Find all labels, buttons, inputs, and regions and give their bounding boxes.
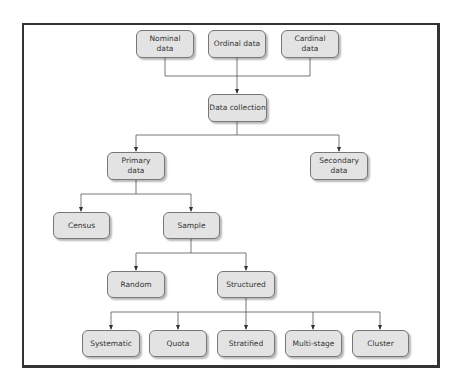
node-sample: Sample (163, 212, 220, 239)
node-cluster: Cluster (352, 330, 409, 357)
node-stratified: Stratified (217, 330, 275, 357)
node-census: Census (53, 212, 110, 239)
node-label: Ordinal data (214, 39, 260, 49)
node-label: Cluster (367, 339, 394, 349)
node-label: Secondary data (319, 156, 359, 176)
node-label: Sample (177, 221, 205, 231)
node-multi-stage: Multi-stage (285, 330, 342, 357)
node-quota: Quota (149, 330, 207, 357)
node-label: Stratified (229, 339, 264, 349)
node-label: Multi-stage (293, 339, 335, 349)
node-nominal-data: Nominal data (136, 30, 194, 58)
node-primary-data: Primary data (107, 152, 165, 180)
node-ordinal-data: Ordinal data (208, 30, 266, 58)
node-data-collection: Data collection (208, 94, 267, 122)
node-label: Data collection (209, 103, 265, 113)
node-label: Random (120, 280, 151, 290)
node-structured: Structured (217, 271, 275, 298)
node-systematic: Systematic (82, 330, 140, 357)
node-label: Census (68, 221, 95, 231)
node-label: Nominal data (149, 34, 180, 54)
node-secondary-data: Secondary data (310, 152, 368, 180)
node-label: Quota (167, 339, 190, 349)
node-random: Random (107, 271, 165, 298)
node-label: Structured (226, 280, 266, 290)
node-label: Systematic (90, 339, 132, 349)
node-label: Cardinal data (294, 34, 325, 54)
node-cardinal-data: Cardinal data (281, 30, 339, 58)
node-label: Primary data (122, 156, 151, 176)
